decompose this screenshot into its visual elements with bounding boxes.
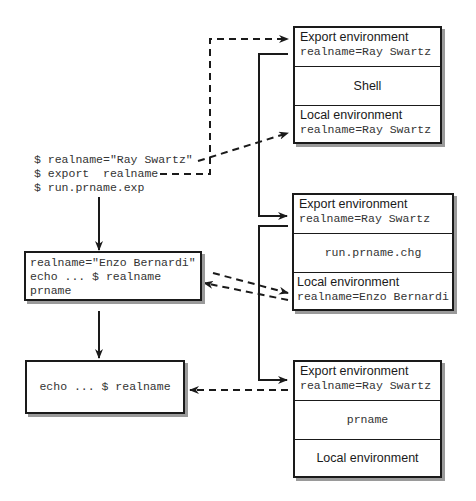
export-label: Export environment: [299, 197, 447, 212]
read-arrow-2: [204, 283, 288, 300]
export-value: realname=Ray Swartz: [300, 379, 435, 393]
local-environment: Local environment realname=Ray Swartz: [295, 106, 440, 142]
script-box: realname="Enzo Bernardi" echo ... $ real…: [24, 251, 202, 301]
export-environment: Export environment realname=Ray Swartz: [294, 195, 452, 234]
local-label: Local environment: [316, 451, 418, 466]
command-line: $ run.prname.exp: [34, 181, 193, 195]
script-line: prname: [30, 284, 196, 298]
local-environment: Local environment: [295, 440, 440, 476]
local-label: Local environment: [297, 275, 447, 290]
export-value: realname=Ray Swartz: [299, 212, 447, 226]
program-name: prname: [347, 413, 388, 427]
local-environment: Local environment realname=Enzo Bernardi: [294, 273, 452, 309]
local-value: realname=Enzo Bernardi: [297, 290, 447, 304]
program-section: Shell: [295, 67, 440, 106]
program-section: prname: [295, 401, 440, 440]
export-value: realname=Ray Swartz: [300, 45, 435, 59]
program-name: run.prname.chg: [325, 246, 422, 260]
program-section: run.prname.chg: [294, 234, 452, 273]
command-line: $ realname="Ray Swartz": [34, 153, 193, 167]
process-box-shell: Export environment realname=Ray Swartz S…: [293, 26, 442, 144]
assign-arrow: [198, 133, 288, 161]
local-label: Local environment: [300, 108, 435, 123]
export-environment: Export environment realname=Ray Swartz: [295, 28, 440, 67]
program-name: Shell: [354, 79, 382, 94]
assign-arrow-2: [213, 273, 288, 293]
export-label: Export environment: [300, 364, 435, 379]
script-line: realname="Enzo Bernardi": [30, 256, 196, 270]
process-box-run-prname-chg: Export environment realname=Ray Swartz r…: [292, 193, 454, 311]
export-label: Export environment: [300, 30, 435, 45]
script-line: echo ... $ realname: [30, 270, 196, 284]
echo-box: echo ... $ realname: [25, 360, 185, 414]
command-line: $ export realname: [34, 167, 193, 181]
process-box-prname: Export environment realname=Ray Swartz p…: [293, 360, 442, 478]
command-lines: $ realname="Ray Swartz"$ export realname…: [34, 153, 193, 195]
local-value: realname=Ray Swartz: [300, 123, 435, 137]
echo-text: echo ... $ realname: [39, 380, 170, 394]
inherit-arrow-2: [259, 226, 288, 380]
export-environment: Export environment realname=Ray Swartz: [295, 362, 440, 401]
